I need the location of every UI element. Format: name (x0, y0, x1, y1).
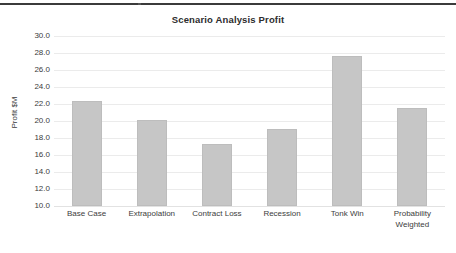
y-axis-tick-label: 28.0 (6, 49, 50, 57)
x-axis-tick-label: Extrapolation (119, 209, 184, 220)
x-axis-tick-label: Base Case (54, 209, 119, 220)
bar (332, 56, 362, 206)
x-axis-tick-label-line: Probability (380, 209, 445, 220)
y-axis-tick-label: 16.0 (6, 151, 50, 159)
y-axis-tick-label: 12.0 (6, 185, 50, 193)
x-axis-tick-label-line: Extrapolation (119, 209, 184, 220)
x-axis-tick-label: ProbabilityWeighted (380, 209, 445, 230)
bar (202, 144, 232, 206)
x-axis-tick-labels: Base CaseExtrapolationContract LossReces… (54, 209, 445, 249)
x-axis-tick-label: Recession (250, 209, 315, 220)
y-axis-tick-label: 20.0 (6, 117, 50, 125)
chart-title: Scenario Analysis Profit (0, 14, 456, 25)
y-axis-tick-label: 30.0 (6, 32, 50, 40)
x-axis-tick-label-line: Weighted (380, 220, 445, 231)
x-axis-tick-label-line: Tonk Win (315, 209, 380, 220)
y-axis-tick-label: 24.0 (6, 83, 50, 91)
bar-series (54, 36, 445, 206)
gridline (54, 206, 445, 207)
x-axis-tick-label-line: Recession (250, 209, 315, 220)
y-axis-tick-label: 18.0 (6, 134, 50, 142)
bar (137, 120, 167, 206)
bar (72, 101, 102, 206)
y-axis-tick-label: 10.0 (6, 202, 50, 210)
y-axis-tick-label: 22.0 (6, 100, 50, 108)
x-axis-tick-label-line: Base Case (54, 209, 119, 220)
y-axis-tick-label: 26.0 (6, 66, 50, 74)
bar (267, 129, 297, 206)
bar (397, 108, 427, 206)
scenario-analysis-profit-chart: Scenario Analysis Profit Profit $M 30.02… (0, 0, 456, 253)
x-axis-tick-label: Tonk Win (315, 209, 380, 220)
y-axis-tick-label: 14.0 (6, 168, 50, 176)
x-axis-tick-label: Contract Loss (184, 209, 249, 220)
y-axis-tick-labels: 30.028.026.024.022.020.018.016.014.012.0… (4, 36, 50, 206)
x-axis-tick-label-line: Contract Loss (184, 209, 249, 220)
